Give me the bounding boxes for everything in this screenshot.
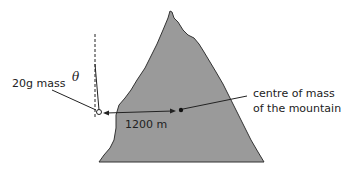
pendulum-string bbox=[95, 64, 99, 110]
arrowhead-left-icon bbox=[103, 111, 109, 116]
pendulum-mass bbox=[97, 110, 102, 115]
angle-theta-label: θ bbox=[72, 70, 80, 84]
centre-of-mass-label-line1: centre of mass bbox=[253, 87, 335, 100]
mass-leader-line bbox=[52, 90, 96, 110]
mountain bbox=[99, 11, 264, 162]
centre-of-mass-dot bbox=[179, 108, 183, 112]
pendulum-mountain-diagram: 20g mass θ 1200 m centre of mass of the … bbox=[0, 0, 343, 172]
mass-label: 20g mass bbox=[12, 77, 66, 90]
centre-of-mass-label-line2: of the mountain bbox=[253, 102, 341, 115]
distance-label: 1200 m bbox=[125, 118, 167, 131]
